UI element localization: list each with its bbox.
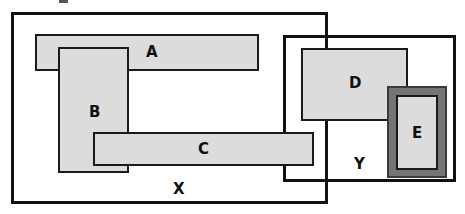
label-b: B (89, 105, 100, 120)
diagram-canvas: A B C D E X Y (0, 0, 465, 214)
label-e: E (412, 126, 422, 141)
scan-artifact-mark (59, 0, 68, 3)
label-a: A (146, 45, 158, 60)
label-y: Y (354, 157, 365, 172)
label-x: X (173, 182, 185, 197)
label-c: C (198, 142, 209, 157)
label-d: D (349, 76, 361, 91)
